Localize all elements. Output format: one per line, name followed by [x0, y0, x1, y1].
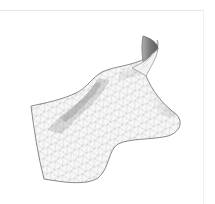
surface-curl	[132, 36, 158, 76]
surface-body	[0, 0, 215, 204]
mesh-surface-render	[0, 0, 215, 204]
figure-canvas	[0, 0, 215, 204]
